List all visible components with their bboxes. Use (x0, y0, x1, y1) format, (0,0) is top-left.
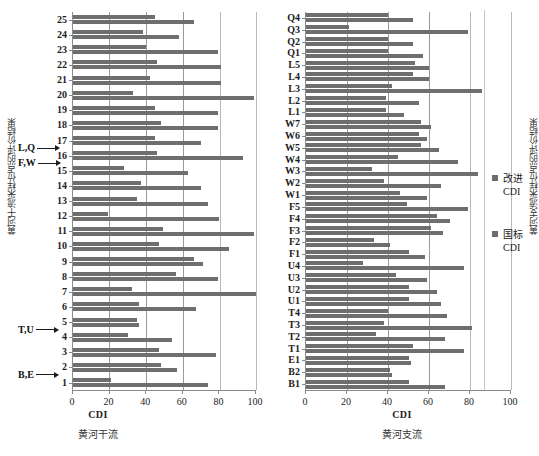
category-tick-T1: T1 (268, 343, 305, 355)
category-tick-T3: T3 (268, 319, 305, 331)
bar-improved (73, 45, 146, 49)
bar-row (306, 130, 511, 142)
bar-row (73, 299, 256, 314)
bar-national (306, 266, 464, 270)
bar-improved (306, 297, 409, 301)
bar-national (306, 160, 458, 164)
category-label: 23 (57, 45, 72, 55)
category-tick-7: 7 (0, 284, 72, 299)
bar-row (73, 375, 256, 390)
bar-national (73, 141, 201, 145)
bar-row (73, 360, 256, 375)
bar-national (306, 66, 429, 70)
bar-improved (73, 166, 124, 170)
bar-row (306, 83, 511, 95)
category-label: L5 (288, 60, 305, 70)
category-tick-19: 19 (0, 103, 72, 118)
bar-row (73, 330, 256, 345)
category-label: W7 (285, 119, 305, 129)
category-tick-3: 3 (0, 345, 72, 360)
bar-improved (306, 344, 413, 348)
bar-national (73, 156, 243, 160)
category-tick-12: 12 (0, 209, 72, 224)
category-tick-W4: W4 (268, 154, 305, 166)
legend-item-national[interactable]: 国标 CDI (492, 228, 523, 254)
category-label: Q3 (287, 25, 305, 35)
category-label: U4 (288, 261, 305, 271)
bar-improved (73, 91, 133, 95)
category-tick-E1: E1 (268, 355, 305, 367)
bar-national (73, 111, 218, 115)
category-tick-L2: L2 (268, 95, 305, 107)
category-tick-23: 23 (0, 42, 72, 57)
category-tick-L4: L4 (268, 71, 305, 83)
bar-national (73, 353, 216, 357)
annotation-label: B,E (18, 370, 34, 380)
bar-row (73, 254, 256, 269)
bar-national (306, 113, 404, 117)
plot-area-mainstream (72, 12, 256, 390)
bar-row (306, 284, 511, 296)
gridline-100 (256, 12, 257, 390)
legend-item-improved[interactable]: 改进 CDI (492, 172, 523, 198)
bar-row (306, 272, 511, 284)
bar-national (73, 323, 139, 327)
bar-improved (73, 76, 150, 80)
bar-national (306, 125, 431, 129)
bar-national (73, 383, 208, 387)
bar-row (306, 71, 511, 83)
bar-row (306, 12, 511, 24)
category-tick-W1: W1 (268, 189, 305, 201)
bar-improved (73, 15, 155, 19)
category-tick-14: 14 (0, 178, 72, 193)
bar-improved (306, 309, 388, 313)
bar-row (306, 355, 511, 367)
annotation-label: L,Q (18, 143, 35, 153)
bar-national (73, 35, 179, 39)
bar-national (306, 30, 468, 34)
x-tick-label: 60 (177, 396, 187, 407)
bar-row (306, 166, 511, 178)
x-tick-label: 40 (382, 396, 392, 407)
bar-improved (73, 318, 137, 322)
category-label: W5 (285, 143, 305, 153)
bar-improved (306, 321, 384, 325)
bar-improved (306, 61, 415, 65)
bar-improved (73, 136, 155, 140)
bar-row (306, 47, 511, 59)
category-tick-L5: L5 (268, 59, 305, 71)
category-label: 7 (62, 287, 72, 297)
category-label: 21 (57, 75, 72, 85)
bar-national (306, 89, 482, 93)
bar-row (73, 103, 256, 118)
category-label: F3 (289, 226, 305, 236)
bar-row (73, 27, 256, 42)
bar-national (73, 247, 229, 251)
category-label: W2 (285, 178, 305, 188)
category-tick-L1: L1 (268, 107, 305, 119)
bar-row (306, 366, 511, 378)
bar-row (73, 178, 256, 193)
bar-row (306, 142, 511, 154)
bar-row (306, 260, 511, 272)
category-axis-tributary: Q4Q3Q2Q1L5L4L3L2L1W7W6W5W4W3W2W1F5F4F3F2… (268, 12, 305, 390)
x-tick-label: 20 (104, 396, 114, 407)
category-label: W3 (285, 166, 305, 176)
x-tick (387, 390, 388, 394)
bar-national (306, 290, 437, 294)
annotation-label: T,U (18, 325, 34, 335)
bar-improved (73, 287, 132, 291)
category-tick-9: 9 (0, 254, 72, 269)
category-tick-21: 21 (0, 73, 72, 88)
bar-row (73, 148, 256, 163)
bar-improved (73, 106, 155, 110)
bar-national (306, 101, 419, 105)
bar-row (306, 177, 511, 189)
bar-improved (73, 197, 137, 201)
bar-improved (306, 238, 374, 242)
bar-row (306, 189, 511, 201)
bar-national (73, 292, 256, 296)
bar-national (306, 207, 468, 211)
category-label: W4 (285, 155, 305, 165)
bar-national (306, 314, 447, 318)
